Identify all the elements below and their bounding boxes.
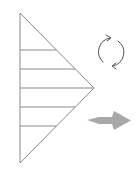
diagram-svg <box>0 0 140 175</box>
rotate-cycle-icon <box>99 35 124 69</box>
diagram-canvas: Triangle divided into horizontal strips,… <box>0 0 140 175</box>
striped-triangle <box>20 13 94 163</box>
rotate-arc-left <box>99 38 110 62</box>
arrow-right-icon <box>87 111 131 130</box>
rotate-arc-right <box>113 41 124 66</box>
